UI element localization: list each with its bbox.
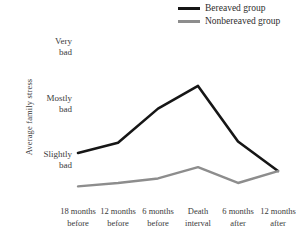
chart-figure: Bereaved group Nonbereaved group Average… [0,0,296,242]
legend-item-nonbereaved[interactable]: Nonbereaved group [178,15,296,28]
legend-swatch-bereaved-icon [178,7,200,10]
chart-svg [60,28,296,204]
legend-label-nonbereaved: Nonbereaved group [205,16,280,27]
x-axis-tick-labels: 18 monthsbefore12 monthsbefore6 monthsbe… [0,206,296,242]
chart-legend: Bereaved group Nonbereaved group [178,2,296,28]
x-tick-label-line: after [248,218,296,230]
x-tick-label: 12 monthsafter [248,206,296,229]
series-line-bereaved [78,86,278,171]
x-tick-label-line: 12 months [248,206,296,218]
plot-area [60,28,296,204]
legend-item-bereaved[interactable]: Bereaved group [178,2,296,15]
legend-label-bereaved: Bereaved group [205,3,265,14]
legend-swatch-nonbereaved-icon [178,20,200,23]
series-line-nonbereaved [78,167,278,186]
